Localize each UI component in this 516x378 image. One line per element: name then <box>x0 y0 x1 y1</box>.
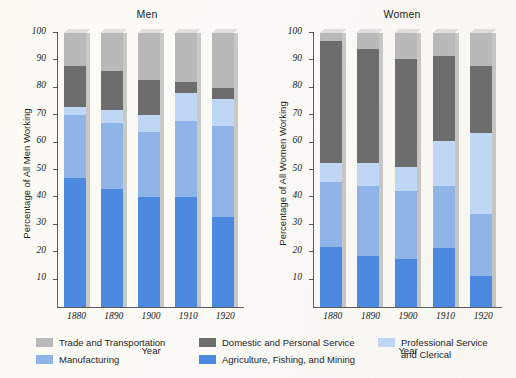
stacked-bar-1880[interactable] <box>64 33 86 307</box>
legend-item-3[interactable]: Agriculture, Fishing, and Mining <box>199 354 355 366</box>
x-tick-label-1920: 1920 <box>216 311 235 321</box>
x-tick-label-1900: 1900 <box>141 311 160 321</box>
legend-item-1[interactable]: Manufacturing <box>36 354 119 366</box>
bar-segment-manufacturing-1920[interactable] <box>470 214 492 276</box>
bar-segment-agriculture-fishing-and-mining-1900[interactable] <box>395 259 417 307</box>
bar-segment-professional-service-and-clerical-1910[interactable] <box>175 93 197 120</box>
bar-segment-agriculture-fishing-and-mining-1920[interactable] <box>470 276 492 308</box>
legend-swatch-icon-0 <box>36 338 53 347</box>
y-axis-label-men: Percentage of All Men Working <box>21 64 32 284</box>
bar-segment-trade-and-transportation-1920[interactable] <box>470 33 492 66</box>
legend-label-2: Domestic and Personal Service <box>222 337 355 349</box>
bar-segment-professional-service-and-clerical-1880[interactable] <box>320 163 342 182</box>
stacked-bar-1900[interactable] <box>395 33 417 307</box>
bar-segment-agriculture-fishing-and-mining-1900[interactable] <box>138 197 160 307</box>
bar-slot-1920: 1920 <box>470 33 496 307</box>
legend-item-0[interactable]: Trade and Transportation <box>36 337 165 349</box>
bar-segment-manufacturing-1910[interactable] <box>175 121 197 198</box>
y-tick-label-30: 30 <box>293 217 303 227</box>
bar-slot-1900: 1900 <box>138 33 164 307</box>
legend-label-4: Professional Service and Clerical <box>401 337 488 360</box>
bar-segment-agriculture-fishing-and-mining-1920[interactable] <box>212 217 234 307</box>
bar-segment-manufacturing-1880[interactable] <box>64 115 86 178</box>
y-tick-label-40: 40 <box>293 190 303 200</box>
y-tick-label-20: 20 <box>37 245 47 255</box>
bar-segment-manufacturing-1920[interactable] <box>212 126 234 216</box>
bar-segment-professional-service-and-clerical-1920[interactable] <box>470 133 492 214</box>
bar-segment-trade-and-transportation-1890[interactable] <box>101 33 123 71</box>
bar-segment-manufacturing-1890[interactable] <box>357 186 379 256</box>
bar-segment-trade-and-transportation-1880[interactable] <box>320 33 342 41</box>
bar-segment-domestic-and-personal-service-1900[interactable] <box>395 59 417 167</box>
bar-segment-agriculture-fishing-and-mining-1890[interactable] <box>357 256 379 307</box>
legend-item-2[interactable]: Domestic and Personal Service <box>199 337 355 349</box>
bar-segment-agriculture-fishing-and-mining-1910[interactable] <box>175 197 197 307</box>
legend-label-0: Trade and Transportation <box>59 337 165 349</box>
bar-segment-agriculture-fishing-and-mining-1910[interactable] <box>433 248 455 307</box>
stacked-bar-1920[interactable] <box>470 33 492 307</box>
stacked-bar-1890[interactable] <box>357 33 379 307</box>
bar-segment-professional-service-and-clerical-1890[interactable] <box>357 163 379 186</box>
bar-segment-domestic-and-personal-service-1900[interactable] <box>138 80 160 116</box>
bar-segment-professional-service-and-clerical-1920[interactable] <box>212 99 234 126</box>
x-tick-label-1910: 1910 <box>179 311 198 321</box>
bar-segment-domestic-and-personal-service-1920[interactable] <box>470 66 492 133</box>
stacked-bar-1880[interactable] <box>320 33 342 307</box>
bar-segment-professional-service-and-clerical-1910[interactable] <box>433 141 455 186</box>
y-tick-label-50: 50 <box>37 163 47 173</box>
y-tick-label-100: 100 <box>32 26 46 36</box>
legend-swatch-icon-1 <box>36 355 53 364</box>
bar-segment-domestic-and-personal-service-1920[interactable] <box>212 88 234 99</box>
y-tick-label-70: 70 <box>37 108 47 118</box>
bar-segment-manufacturing-1890[interactable] <box>101 123 123 189</box>
bar-segment-professional-service-and-clerical-1880[interactable] <box>64 107 86 115</box>
bar-slot-1910: 1910 <box>433 33 459 307</box>
bar-segment-manufacturing-1880[interactable] <box>320 182 342 246</box>
y-tick-label-30: 30 <box>37 217 47 227</box>
bar-segment-domestic-and-personal-service-1910[interactable] <box>175 82 197 93</box>
bar-segment-manufacturing-1900[interactable] <box>138 132 160 198</box>
panel-women: Women Percentage of All Women Working 10… <box>258 0 516 330</box>
bar-segment-trade-and-transportation-1900[interactable] <box>395 33 417 59</box>
y-tick-label-10: 10 <box>37 272 47 282</box>
bar-segment-agriculture-fishing-and-mining-1890[interactable] <box>101 189 123 307</box>
y-tick-label-40: 40 <box>37 190 47 200</box>
x-tick-label-1890: 1890 <box>104 311 123 321</box>
bar-slot-1880: 1880 <box>64 33 90 307</box>
stacked-bar-1910[interactable] <box>175 33 197 307</box>
bar-segment-professional-service-and-clerical-1890[interactable] <box>101 110 123 124</box>
x-tick-label-1880: 1880 <box>323 311 342 321</box>
bar-segment-trade-and-transportation-1890[interactable] <box>357 33 379 49</box>
stacked-bar-1910[interactable] <box>433 33 455 307</box>
bar-segment-domestic-and-personal-service-1910[interactable] <box>433 56 455 141</box>
bar-segment-agriculture-fishing-and-mining-1880[interactable] <box>64 178 86 307</box>
bar-segment-domestic-and-personal-service-1890[interactable] <box>357 49 379 163</box>
bar-segment-professional-service-and-clerical-1900[interactable] <box>395 167 417 190</box>
stacked-bar-1920[interactable] <box>212 33 234 307</box>
y-tick-label-20: 20 <box>293 245 303 255</box>
x-tick-label-1890: 1890 <box>361 311 380 321</box>
bar-segment-manufacturing-1900[interactable] <box>395 191 417 260</box>
bar-segment-professional-service-and-clerical-1900[interactable] <box>138 115 160 131</box>
bar-slot-1890: 1890 <box>357 33 383 307</box>
x-tick-label-1880: 1880 <box>67 311 86 321</box>
bar-segment-domestic-and-personal-service-1880[interactable] <box>64 66 86 107</box>
bar-segment-trade-and-transportation-1920[interactable] <box>212 33 234 88</box>
y-tick-label-90: 90 <box>293 53 303 63</box>
x-tick-label-1910: 1910 <box>436 311 455 321</box>
chart-legend: Trade and TransportationManufacturingDom… <box>0 335 516 378</box>
bar-segment-trade-and-transportation-1880[interactable] <box>64 33 86 66</box>
x-tick-label-1900: 1900 <box>398 311 417 321</box>
bar-segment-agriculture-fishing-and-mining-1880[interactable] <box>320 247 342 307</box>
bar-segment-trade-and-transportation-1900[interactable] <box>138 33 160 80</box>
bar-segment-domestic-and-personal-service-1890[interactable] <box>101 71 123 109</box>
legend-item-4[interactable]: Professional Service and Clerical <box>378 337 488 360</box>
bar-segment-manufacturing-1910[interactable] <box>433 186 455 248</box>
bar-segment-trade-and-transportation-1910[interactable] <box>175 33 197 82</box>
y-tick-label-80: 80 <box>293 80 303 90</box>
stacked-bar-1890[interactable] <box>101 33 123 307</box>
bar-slot-1910: 1910 <box>175 33 201 307</box>
bar-segment-trade-and-transportation-1910[interactable] <box>433 33 455 56</box>
bar-segment-domestic-and-personal-service-1880[interactable] <box>320 41 342 163</box>
stacked-bar-1900[interactable] <box>138 33 160 307</box>
